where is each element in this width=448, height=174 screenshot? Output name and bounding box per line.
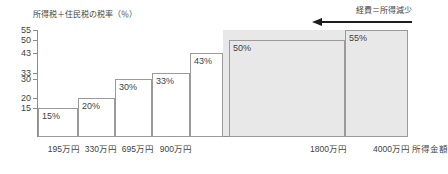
bar-20pct: 20%: [78, 98, 115, 137]
bar-value-label: 15%: [42, 111, 60, 121]
bar-value-label: 33%: [156, 76, 174, 86]
y-tick-label: 20: [21, 94, 31, 103]
y-tick-mark: [33, 98, 37, 99]
x-tick-label: 195万円: [48, 142, 80, 154]
y-tick-mark: [33, 30, 37, 31]
bar-value-label: 20%: [82, 101, 100, 111]
y-tick-label: 50: [21, 35, 31, 44]
left-arrow-icon: [312, 17, 412, 26]
bar-value-label: 55%: [349, 33, 367, 43]
bar-value-label: 50%: [233, 43, 251, 53]
bar-33pct: 33%: [152, 73, 190, 137]
expense-annotation: 経費＝所得減少: [312, 6, 412, 26]
expense-annotation-label: 経費＝所得減少: [356, 6, 412, 16]
bar-value-label: 30%: [119, 82, 137, 92]
bar-55pct: 55%: [345, 30, 408, 137]
x-tick-label: 4000万円: [373, 142, 410, 154]
y-tick-mark: [33, 53, 37, 54]
x-axis-title: 所得金額: [412, 142, 448, 154]
plot-area: 55504333302015 15%20%30%33%43%50%55% 195…: [37, 30, 408, 137]
bar-30pct: 30%: [115, 79, 152, 137]
y-tick-mark: [33, 73, 37, 74]
y-tick-mark: [33, 40, 37, 41]
y-tick-label: 43: [21, 49, 31, 58]
y-tick-label: 15: [21, 103, 31, 112]
x-tick-label: 900万円: [160, 142, 192, 154]
x-tick-label: 330万円: [85, 142, 117, 154]
x-tick-label: 1800万円: [310, 142, 347, 154]
y-tick-label: 30: [21, 74, 31, 83]
bar-50pct: 50%: [229, 40, 345, 137]
x-tick-label: 695万円: [122, 142, 154, 154]
bar-15pct: 15%: [38, 108, 78, 137]
bar-value-label: 43%: [194, 56, 212, 66]
y-tick-label: 55: [21, 26, 31, 35]
y-tick-mark: [33, 108, 37, 109]
y-axis-title: 所得税＋住民税の税率（％）: [33, 8, 137, 19]
bar-43pct: 43%: [190, 53, 223, 137]
y-tick-mark: [33, 79, 37, 80]
